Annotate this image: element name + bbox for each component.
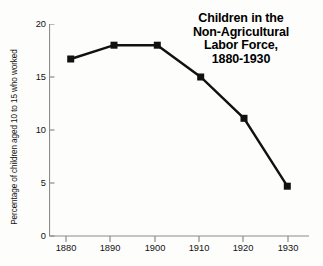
data-point-marker	[284, 183, 291, 190]
chart-figure: Children in the Non-Agricultural Labor F…	[0, 0, 323, 266]
x-axis-ticks	[66, 236, 288, 242]
x-tick-label: 1920	[221, 243, 265, 253]
x-tick-label: 1890	[88, 243, 132, 253]
x-tick-label: 1910	[177, 243, 221, 253]
data-point-marker	[154, 42, 161, 49]
x-tick-label: 1930	[266, 243, 310, 253]
data-series-line	[71, 45, 288, 186]
data-point-markers	[67, 42, 291, 190]
y-axis-ticks	[50, 24, 55, 236]
data-point-marker	[111, 42, 118, 49]
data-point-marker	[67, 56, 74, 63]
x-tick-label: 1900	[133, 243, 177, 253]
plot-area	[49, 24, 309, 236]
x-tick-label: 1880	[44, 243, 88, 253]
plot-svg	[49, 24, 309, 242]
data-point-marker	[241, 115, 248, 122]
data-point-marker	[197, 74, 204, 81]
